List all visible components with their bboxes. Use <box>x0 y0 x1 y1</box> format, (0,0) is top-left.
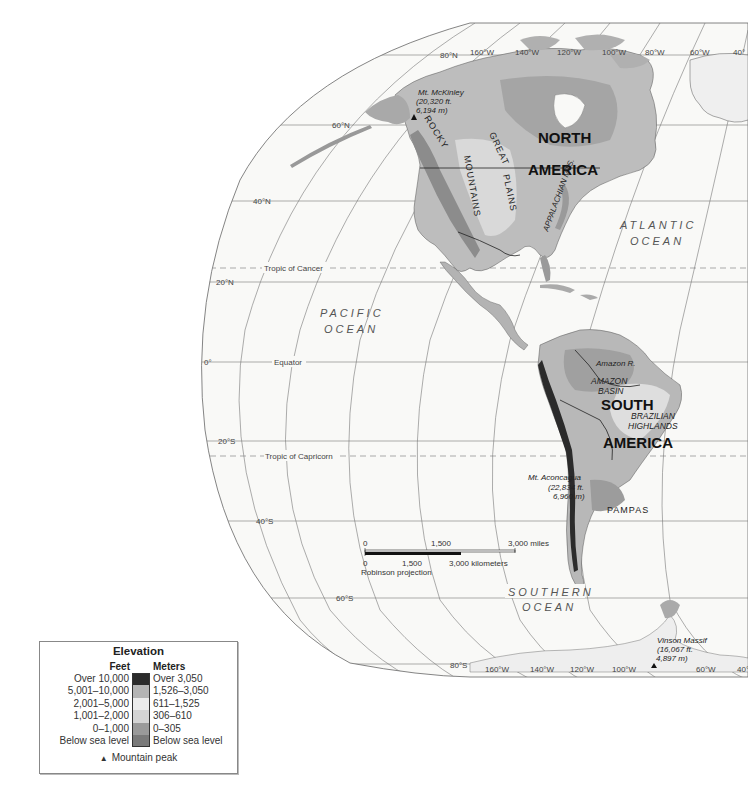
legend-meters: 306–610 <box>153 710 192 722</box>
legend-feet-header: Feet <box>109 661 130 672</box>
atlantic-ocean-label-2: OCEAN <box>630 235 684 247</box>
peak-name: Mt. McKinley <box>418 88 465 97</box>
scale-miles-0: 0 <box>363 539 368 548</box>
equator-label: Equator <box>274 358 302 367</box>
south-america-label-2: AMERICA <box>603 434 673 451</box>
peak-elev-m: 6,960 m) <box>553 492 585 501</box>
legend-feet: Below sea level <box>60 735 129 747</box>
lon-40-bottom: 40° <box>737 665 748 674</box>
legend-row: Over 10,000 Over 3,050 <box>40 673 237 685</box>
lon-160w-bottom: 160°W <box>485 665 510 674</box>
legend-feet: 5,001–10,000 <box>68 685 129 697</box>
legend-swatch <box>132 710 150 722</box>
lat-80n-label: 80°N <box>440 51 458 60</box>
pacific-ocean-label-2: OCEAN <box>324 323 378 335</box>
lat-60n-label: 60°N <box>332 121 350 130</box>
tropic-of-capricorn-label: Tropic of Capricorn <box>265 452 333 461</box>
southern-ocean-label-2: OCEAN <box>522 601 576 613</box>
north-america-label-1: NORTH <box>538 129 591 146</box>
lat-20s-label: 20°S <box>218 437 235 446</box>
lat-80s-label: 80°S <box>450 661 467 670</box>
legend-swatch <box>132 685 150 697</box>
legend-mountain-peak: ▲Mountain peak <box>40 752 237 763</box>
lon-60w-top: 60°W <box>690 48 710 57</box>
peak-elev-m: 6,194 m) <box>416 106 448 115</box>
lat-40n-label: 40°N <box>253 197 271 206</box>
lon-80w-top: 80°W <box>645 48 665 57</box>
amazon-basin-label-2: BASIN <box>598 386 624 396</box>
legend-peak-label: Mountain peak <box>112 752 178 763</box>
peak-name: Vinson Massif <box>657 636 707 645</box>
elevation-legend: Elevation Feet Meters Over 10,000 Over 3… <box>39 641 238 774</box>
peak-elev-ft: (22,834 ft. <box>548 483 584 492</box>
legend-meters: 1,526–3,050 <box>153 685 209 697</box>
lon-100w-top: 100°W <box>602 48 627 57</box>
legend-swatch <box>132 698 150 710</box>
tropic-of-cancer-label: Tropic of Cancer <box>264 264 323 273</box>
lon-60w-bottom: 60°W <box>696 665 716 674</box>
legend-rows: Over 10,000 Over 3,050 5,001–10,000 1,52… <box>40 673 237 747</box>
legend-feet: 1,001–2,000 <box>73 710 129 722</box>
amazon-basin-label-1: AMAZON <box>590 376 628 386</box>
legend-row: Below sea level Below sea level <box>40 735 237 747</box>
lon-140w-bottom: 140°W <box>530 665 555 674</box>
legend-feet: Over 10,000 <box>74 673 129 685</box>
southern-ocean-label-1: SOUTHERN <box>508 586 594 598</box>
legend-feet: 0–1,000 <box>93 723 129 735</box>
legend-swatch <box>132 735 150 747</box>
lon-160w-top: 160°W <box>470 48 495 57</box>
legend-title: Elevation <box>40 645 237 657</box>
mountain-peak-icon: ▲ <box>100 754 108 763</box>
legend-row: 0–1,000 0–305 <box>40 723 237 735</box>
legend-feet: 2,001–5,000 <box>73 698 129 710</box>
legend-row: 1,001–2,000 306–610 <box>40 710 237 722</box>
scale-miles-3000: 3,000 miles <box>508 539 549 548</box>
legend-swatch <box>132 723 150 735</box>
peak-elev-m: 4,897 m) <box>656 654 688 663</box>
legend-row: 5,001–10,000 1,526–3,050 <box>40 685 237 697</box>
pampas-label: PAMPAS <box>607 505 649 515</box>
legend-meters: 0–305 <box>153 723 181 735</box>
lon-40-top: 40° <box>733 48 745 57</box>
peak-elev-ft: (16,067 ft. <box>657 645 693 654</box>
scale-km-0: 0 <box>363 559 368 568</box>
lat-40s-label: 40°S <box>256 517 273 526</box>
atlantic-ocean-label-1: ATLANTIC <box>619 219 696 231</box>
pacific-ocean-label-1: PACIFIC <box>320 307 384 319</box>
peak-elev-ft: (20,320 ft. <box>416 97 452 106</box>
legend-swatch <box>132 673 150 685</box>
scale-km-1500: 1,500 <box>402 559 423 568</box>
lon-120w-bottom: 120°W <box>570 665 595 674</box>
lon-140w-top: 140°W <box>515 48 540 57</box>
brazilian-highlands-label-2: HIGHLANDS <box>628 421 678 431</box>
lat-60s-label: 60°S <box>336 594 353 603</box>
amazon-river-label: Amazon R. <box>595 359 636 368</box>
lat-0-label: 0° <box>204 358 212 367</box>
legend-meters: 611–1,525 <box>153 698 200 710</box>
scale-km-3000: 3,000 kilometers <box>449 559 508 568</box>
legend-meters-header: Meters <box>153 661 185 672</box>
lon-100w-bottom: 100°W <box>612 665 637 674</box>
legend-meters: Over 3,050 <box>153 673 202 685</box>
peak-name: Mt. Aconcagua <box>528 473 582 482</box>
brazilian-highlands-label-1: BRAZILIAN <box>631 411 676 421</box>
lat-20n-label: 20°N <box>216 278 234 287</box>
lon-120w-top: 120°W <box>557 48 582 57</box>
scale-miles-1500: 1,500 <box>431 539 452 548</box>
legend-row: 2,001–5,000 611–1,525 <box>40 698 237 710</box>
legend-meters: Below sea level <box>153 735 222 747</box>
projection-label: Robinson projection <box>361 568 432 577</box>
